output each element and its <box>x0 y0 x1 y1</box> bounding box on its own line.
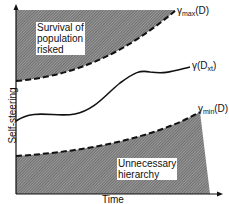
y-axis-label: Self-steering <box>7 86 18 146</box>
label-gamma-max: γmax(D) <box>177 5 209 19</box>
label-line: Unnecessary <box>118 158 176 169</box>
y-axis-arrow-icon <box>14 4 19 10</box>
label-sub: max <box>182 10 195 17</box>
label-suffix: (D) <box>214 103 228 114</box>
x-axis-arrow-icon <box>217 192 223 197</box>
label-line: hierarchy <box>118 169 176 180</box>
label-line: Survival of <box>37 22 84 33</box>
label-line: population <box>37 33 84 44</box>
label-gamma-min: γmin(D) <box>198 103 228 117</box>
label-prefix: γ(D <box>192 60 208 71</box>
x-axis-label: Time <box>102 194 124 204</box>
label-gamma-actual: γ(Dxt) <box>192 60 216 74</box>
label-suffix: ) <box>213 60 216 71</box>
label-suffix: (D) <box>195 5 209 16</box>
label-survival-risked: Survival of population risked <box>36 22 85 55</box>
diagram-canvas <box>0 0 229 204</box>
label-sub: min <box>203 108 214 115</box>
label-line: risked <box>37 44 84 55</box>
label-unnecessary-hierarchy: Unnecessary hierarchy <box>117 158 177 180</box>
